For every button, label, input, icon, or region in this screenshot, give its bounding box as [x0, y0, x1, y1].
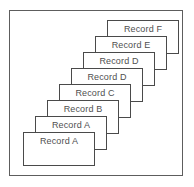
record-card-stack: Record FRecord ERecord DRecord DRecord C… — [10, 11, 184, 177]
record-card-label: Record D — [84, 56, 154, 67]
record-card-label: Record E — [96, 40, 166, 51]
record-card-label: Record B — [48, 104, 118, 115]
record-card-label: Record A — [24, 136, 94, 147]
record-card-label: Record D — [72, 72, 142, 83]
record-card-label: Record C — [60, 88, 130, 99]
record-card[interactable]: Record A — [23, 132, 95, 166]
record-card-label: Record F — [108, 24, 178, 35]
record-card-label: Record A — [36, 120, 106, 131]
diagram-frame: Record FRecord ERecord DRecord DRecord C… — [9, 10, 183, 176]
